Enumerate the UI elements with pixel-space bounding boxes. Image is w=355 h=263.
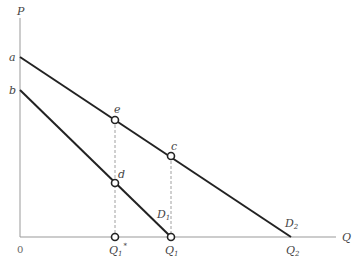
point-q1 bbox=[168, 234, 175, 241]
y-axis-label: P bbox=[16, 5, 25, 18]
point-e bbox=[112, 117, 119, 124]
tick-q1-label: Q1 bbox=[165, 244, 179, 258]
demand-diagram: P Q 0 a b e c d D1 D2 Q1* Q1 Q2 bbox=[0, 0, 355, 263]
tick-q1star-label: Q1* bbox=[109, 242, 128, 258]
intercept-b-label: b bbox=[9, 84, 16, 97]
curve-d1-label: D1 bbox=[156, 208, 170, 222]
demand-curve-d2 bbox=[20, 57, 291, 237]
point-q1star bbox=[112, 234, 119, 241]
intercept-a-label: a bbox=[9, 51, 16, 64]
point-e-label: e bbox=[114, 103, 121, 116]
point-d-label: d bbox=[118, 168, 125, 181]
demand-curve-d1 bbox=[20, 90, 171, 237]
point-c-label: c bbox=[171, 140, 177, 153]
origin-label: 0 bbox=[17, 244, 23, 255]
curve-d2-label: D2 bbox=[284, 217, 299, 231]
tick-q2-label: Q2 bbox=[286, 244, 300, 258]
point-c bbox=[168, 153, 175, 160]
x-axis-label: Q bbox=[342, 231, 351, 244]
